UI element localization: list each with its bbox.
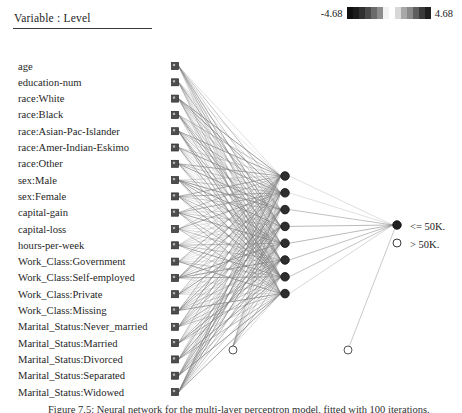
hidden-node[interactable] <box>281 289 290 298</box>
input-node[interactable] <box>172 79 179 86</box>
input-node[interactable] <box>172 340 179 347</box>
hidden-node[interactable] <box>281 189 290 198</box>
input-node[interactable] <box>172 356 179 363</box>
edge-input-hidden <box>179 210 281 262</box>
edge-input-hidden <box>179 180 281 277</box>
edge-input-hidden <box>179 277 281 294</box>
edge-input-hidden <box>179 243 281 359</box>
edge-input-hidden <box>179 277 281 376</box>
color-legend: -4.68 4.68 <box>321 7 453 19</box>
edge-input-hidden <box>179 226 281 375</box>
edge-input-hidden <box>179 66 281 277</box>
input-node[interactable] <box>172 372 179 379</box>
edge-input-hidden <box>179 115 281 294</box>
input-node[interactable] <box>172 226 179 233</box>
hidden-node[interactable] <box>281 222 290 231</box>
edge-input-hidden <box>179 243 281 294</box>
edge-input-hidden <box>179 82 281 209</box>
input-node-label: Work_Class:Private <box>18 289 102 300</box>
output-node-gt-50k[interactable] <box>393 239 401 247</box>
edge-input-hidden <box>179 148 281 244</box>
edge-input-hidden <box>179 176 281 180</box>
input-node[interactable] <box>172 258 179 265</box>
edge-input-hidden <box>179 277 281 343</box>
input-node[interactable] <box>172 193 179 200</box>
hidden-node[interactable] <box>281 205 290 214</box>
input-node[interactable] <box>172 389 179 396</box>
bias-node-output[interactable] <box>344 346 352 354</box>
edge-input-hidden <box>179 260 281 359</box>
bias-node-hidden[interactable] <box>229 346 237 354</box>
edge-input-hidden <box>179 260 281 311</box>
edge-input-hidden <box>179 210 281 229</box>
input-node[interactable] <box>172 209 179 216</box>
edge-input-hidden <box>179 229 281 243</box>
edge-input-hidden <box>179 193 281 294</box>
edge-input-hidden <box>179 277 281 327</box>
edge-input-hidden <box>179 226 281 278</box>
input-node[interactable] <box>172 111 179 118</box>
edge-input-hidden <box>179 176 281 359</box>
edge-input-hidden <box>179 176 281 278</box>
edge-input-hidden <box>179 115 281 260</box>
input-node-weight-swatch <box>173 325 175 327</box>
hidden-node[interactable] <box>281 172 290 181</box>
edge-input-hidden <box>179 193 281 343</box>
input-node[interactable] <box>172 144 179 151</box>
hidden-node[interactable] <box>281 256 290 265</box>
input-node-weight-swatch <box>173 357 175 359</box>
input-node-label: education-num <box>18 77 82 88</box>
edge-input-hidden <box>179 210 281 213</box>
edge-input-hidden <box>179 193 281 213</box>
edge-input-hidden <box>179 148 281 210</box>
input-node[interactable] <box>172 63 179 70</box>
edge-input-hidden <box>179 193 281 376</box>
output-node-le-50k[interactable] <box>393 221 402 230</box>
edge-input-hidden <box>179 176 281 311</box>
input-node-weight-swatch <box>173 292 175 294</box>
edge-input-hidden <box>179 277 281 392</box>
input-node[interactable] <box>172 242 179 249</box>
hidden-node[interactable] <box>281 273 290 282</box>
edge-input-hidden <box>179 243 281 261</box>
edge-input-hidden <box>179 131 281 260</box>
input-node[interactable] <box>172 160 179 167</box>
edge-input-hidden <box>179 196 281 243</box>
input-node-label: sex:Female <box>18 191 66 202</box>
edge-input-hidden <box>179 148 281 294</box>
edge-hidden-output <box>289 210 392 225</box>
edge-input-hidden <box>179 99 281 227</box>
edge-input-hidden <box>179 210 281 344</box>
edge-input-hidden <box>179 226 281 359</box>
edge-input-hidden <box>179 213 281 277</box>
input-node-weight-swatch <box>173 64 175 66</box>
input-node-weight-swatch <box>173 97 175 99</box>
edge-input-hidden <box>179 226 281 294</box>
edge-input-hidden <box>179 131 281 277</box>
input-node[interactable] <box>172 274 179 281</box>
edge-input-hidden <box>179 164 281 260</box>
input-node[interactable] <box>172 291 179 298</box>
edge-hidden-output <box>289 225 392 294</box>
edge-bias-hidden <box>233 243 281 346</box>
input-node[interactable] <box>172 177 179 184</box>
edge-input-hidden <box>179 164 281 227</box>
hidden-node[interactable] <box>281 239 290 248</box>
edge-input-hidden <box>179 82 281 193</box>
edge-input-hidden <box>179 245 281 293</box>
network-nodes <box>172 63 402 396</box>
input-node-weight-swatch <box>173 178 175 180</box>
edge-input-hidden <box>179 213 281 227</box>
input-node-label: race:Black <box>18 109 63 120</box>
input-node[interactable] <box>172 323 179 330</box>
edge-input-hidden <box>179 176 281 213</box>
edge-input-hidden <box>179 164 281 176</box>
input-node[interactable] <box>172 128 179 135</box>
edge-input-hidden <box>179 82 281 243</box>
edge-input-hidden <box>179 82 281 293</box>
output-label-le-50k: <= 50K. <box>410 221 445 232</box>
edge-bias-hidden <box>233 260 281 346</box>
input-node[interactable] <box>172 307 179 314</box>
input-node[interactable] <box>172 95 179 102</box>
edge-input-hidden <box>179 99 281 176</box>
